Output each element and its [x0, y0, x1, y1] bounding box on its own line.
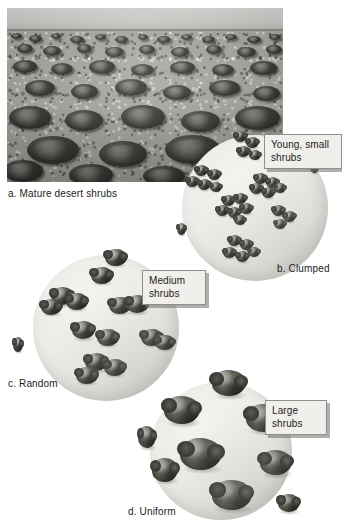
shrub-medium [51, 287, 74, 305]
shrub-small [228, 235, 241, 246]
shrub-large [212, 480, 252, 510]
shrub-small [266, 177, 279, 188]
shrub-large [260, 450, 292, 475]
shrub-medium [91, 267, 113, 284]
shrub-small [254, 173, 267, 184]
caption-random: c. Random [8, 378, 58, 390]
shrub-small [248, 247, 260, 257]
shrub-medium [41, 299, 62, 315]
shrub-small [222, 195, 235, 206]
callout-medium-shrubs: Medium shrubs [142, 270, 206, 305]
callout-large-shrubs: Large shrubs [265, 400, 327, 435]
shrub-medium [76, 367, 98, 384]
shrub-large [180, 438, 222, 470]
shrub-small [228, 207, 241, 218]
shrub-medium [109, 297, 131, 314]
shrub-small [234, 193, 247, 204]
shrub-small [177, 223, 186, 235]
shrub-small [186, 176, 199, 187]
shrub-small [210, 182, 222, 192]
caption-uniform: d. Uniform [128, 506, 176, 518]
shrub-small [274, 183, 286, 193]
shrub-small [246, 137, 259, 148]
shrub-small [262, 187, 275, 198]
shrub-small [240, 203, 253, 214]
shrub-large [212, 370, 246, 396]
shrub-medium [66, 293, 88, 310]
shrub-medium [105, 249, 127, 266]
shrub-medium [97, 329, 119, 346]
shrub-medium [104, 359, 126, 376]
shrub-small [283, 211, 296, 222]
shrub-small [234, 215, 246, 225]
shrub-large [164, 396, 200, 424]
shrub-small [249, 150, 261, 160]
shrub-medium [85, 353, 108, 371]
shrub-small [274, 219, 286, 229]
shrub-small [272, 205, 285, 216]
shrub-large [138, 426, 156, 448]
caption-clumped: b. Clumped [277, 263, 330, 275]
shrub-small [195, 165, 208, 176]
shrub-small [208, 169, 221, 180]
shrub-small [234, 131, 247, 142]
shrub-large [278, 494, 300, 512]
shrub-small [223, 247, 236, 258]
shrub-medium [13, 337, 23, 352]
shrub-medium [72, 321, 95, 339]
shrub-small [237, 146, 250, 157]
shrub-medium [155, 335, 175, 350]
shrub-small [240, 239, 253, 250]
caption-mature-desert-shrubs: a. Mature desert shrubs [8, 188, 117, 200]
shrub-small [216, 205, 229, 216]
shrub-small [198, 179, 211, 190]
shrub-large [152, 458, 178, 482]
shrub-small [236, 251, 249, 262]
callout-young-small-shrubs: Young, small shrubs [264, 134, 342, 169]
shrub-medium [141, 329, 163, 346]
shrub-small [250, 183, 263, 194]
